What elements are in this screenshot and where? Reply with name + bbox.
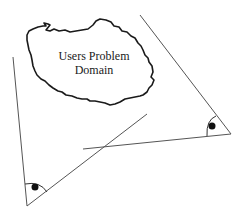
left-angle-dot [32,184,39,191]
cloud-label-line1: Users Problem [59,49,131,63]
diagram-canvas: Users Problem Domain [0,0,245,222]
bottom-left-line [27,114,147,206]
left-line [13,57,27,206]
bottom-line [83,134,231,149]
cloud-label-line2: Domain [75,63,114,77]
right-angle-dot [209,123,216,130]
right-line [140,15,231,134]
